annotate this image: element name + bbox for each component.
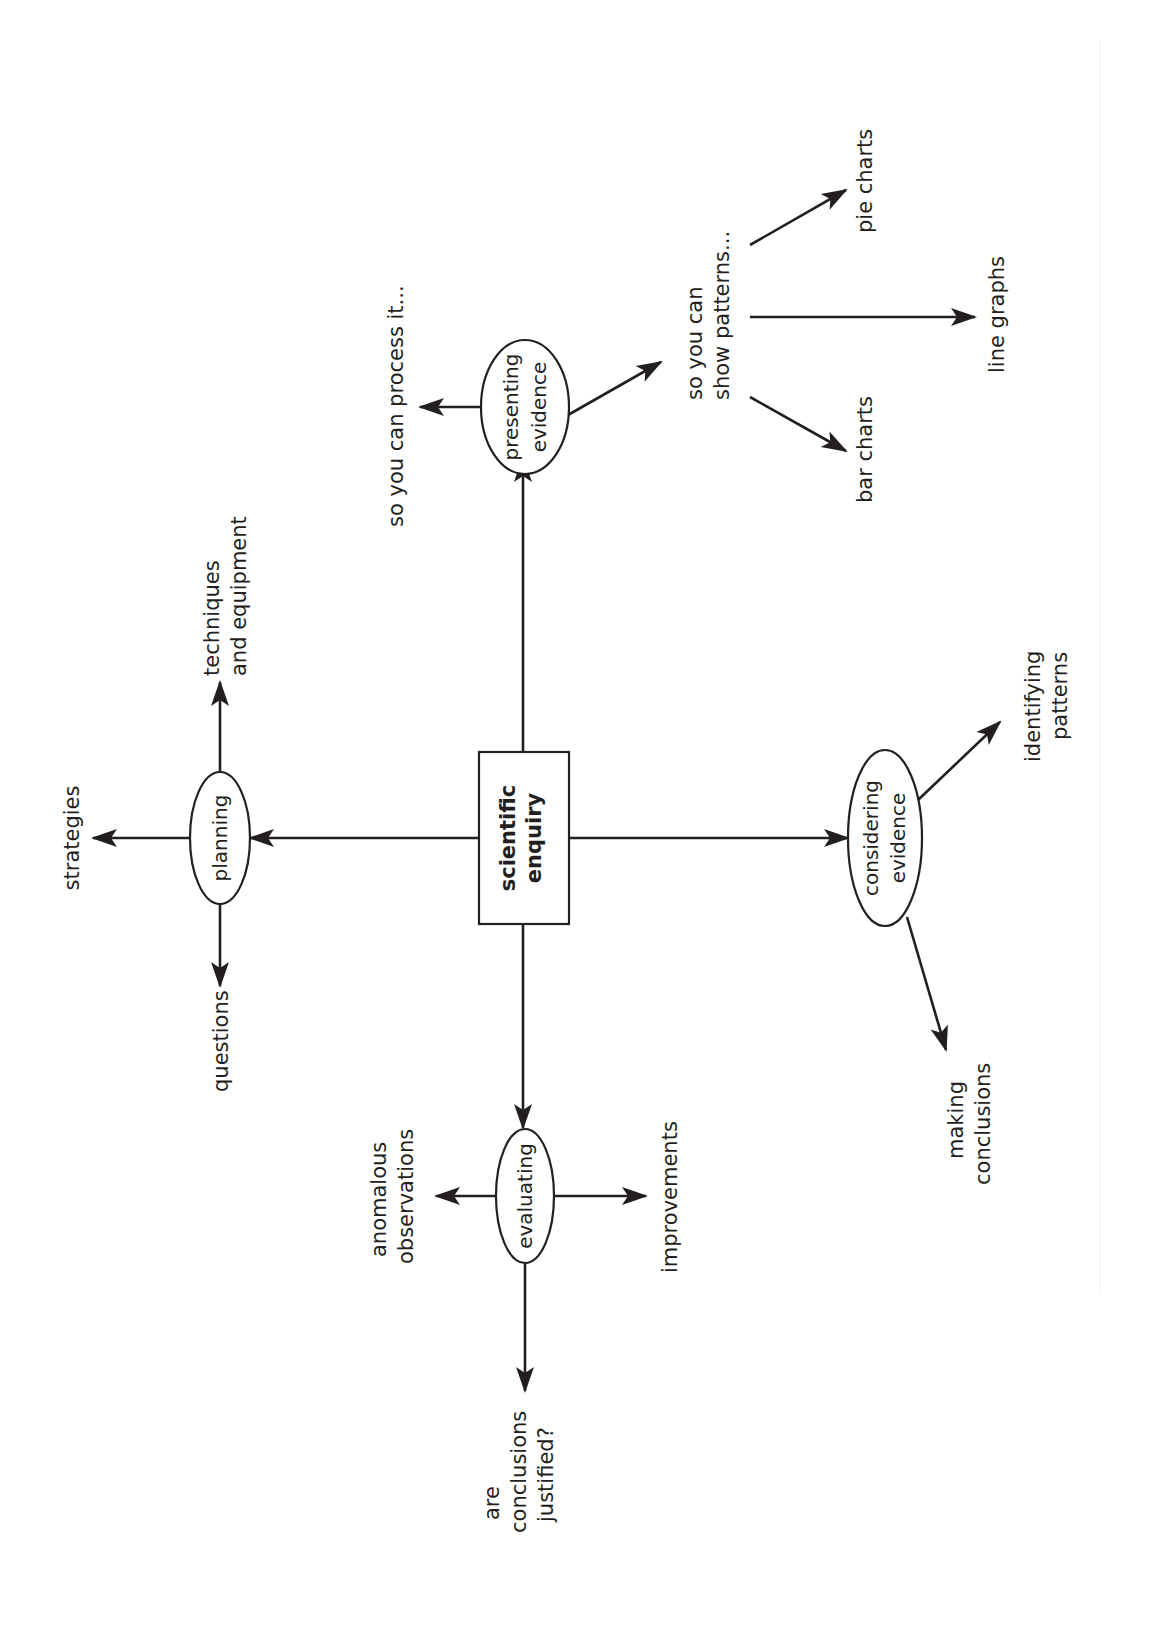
label-techniques-line1: techniques	[200, 560, 224, 676]
label-line-graphs: line graphs	[985, 256, 1009, 373]
label-so-you-can-process: so you can process it...	[384, 285, 408, 527]
node-considering-evidence: considering evidence	[848, 750, 922, 926]
label-bar-charts: bar charts	[853, 396, 877, 503]
arrow-presenting-to-patterns	[568, 362, 661, 415]
node-planning: planning	[190, 772, 250, 904]
label-identifying-line1: identifying	[1021, 651, 1045, 762]
label-justified-line3: justified?	[534, 1427, 558, 1523]
label-questions: questions	[209, 990, 233, 1092]
node-presenting-evidence: presenting evidence	[481, 340, 569, 474]
label-anomalous-line1: anomalous	[367, 1142, 391, 1257]
label-anomalous-line2: observations	[394, 1129, 418, 1264]
center-node-scientific-enquiry: scientific enquiry	[479, 752, 569, 924]
arrow-patterns-to-pie-charts	[750, 190, 846, 245]
label-improvements: improvements	[658, 1121, 682, 1273]
label-techniques-line2: and equipment	[227, 516, 251, 676]
arrow-patterns-to-bar-charts	[750, 397, 846, 451]
label-justified-line2: conclusions	[507, 1411, 531, 1533]
label-making-line2: conclusions	[971, 1063, 995, 1185]
arrow-considering-to-identifying	[918, 722, 1000, 800]
label-identifying-line2: patterns	[1048, 652, 1072, 740]
label-justified-line1: are	[480, 1486, 504, 1520]
label-patterns-line2: show patterns...	[710, 231, 734, 400]
center-label-line1: scientific	[496, 785, 520, 892]
label-patterns-line1: so you can	[683, 287, 707, 400]
node-evaluating: evaluating	[496, 1129, 554, 1263]
label-pie-charts: pie charts	[853, 129, 877, 233]
label-strategies: strategies	[60, 786, 84, 891]
scientific-enquiry-diagram: scientific enquiry planning strategies t…	[0, 0, 1175, 1632]
label-making-line1: making	[944, 1081, 968, 1159]
considering-label-line2: evidence	[886, 793, 910, 884]
evaluating-label: evaluating	[513, 1143, 537, 1249]
center-label-line2: enquiry	[522, 792, 546, 883]
arrow-considering-to-making	[907, 917, 946, 1050]
considering-label-line1: considering	[859, 780, 883, 896]
planning-label: planning	[208, 795, 232, 882]
presenting-label-line1: presenting	[499, 354, 523, 461]
presenting-label-line2: evidence	[527, 362, 551, 453]
